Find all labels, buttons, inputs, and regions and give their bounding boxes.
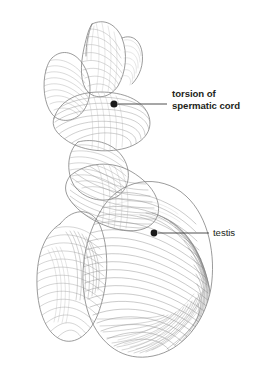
callout-label-testis: testis <box>213 227 235 239</box>
testicular-torsion-figure: torsion of spermatic cord testis <box>0 0 269 377</box>
callout-label-torsion-of-spermatic-cord: torsion of spermatic cord <box>172 88 240 111</box>
anatomy-illustration <box>0 0 269 377</box>
callout-dot-torsion <box>110 100 117 107</box>
callout-dot-testis <box>151 230 158 237</box>
testis-hatching <box>83 192 211 354</box>
left-lobe-hatching <box>34 227 105 340</box>
